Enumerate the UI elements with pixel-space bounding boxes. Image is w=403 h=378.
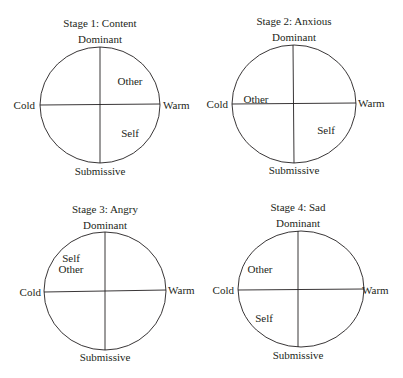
stage-1-title: Stage 1: Content (63, 17, 136, 29)
stage-1-axis-warm: Warm (163, 99, 190, 111)
stage-3-axis-submissive: Submissive (80, 351, 131, 363)
stage-3-other-marker: Other (58, 263, 83, 275)
stage-2-diagram: Stage 2: Anxious Dominant Cold Warm Subm… (207, 15, 385, 176)
stage-1-diagram: Stage 1: Content Dominant Cold Warm Subm… (14, 17, 190, 177)
stage-1-axis-dominant: Dominant (78, 33, 122, 45)
stage-2-other-marker: Other (243, 93, 268, 105)
stage-3-diagram: Stage 3: Angry Dominant Cold Warm Submis… (20, 203, 195, 363)
stage-1-horizontal-axis (40, 104, 160, 105)
stage-3-title: Stage 3: Angry (72, 203, 138, 215)
stage-4-axis-submissive: Submissive (273, 349, 324, 361)
stage-4-diagram: Stage 4: Sad Dominant Cold Warm Submissi… (213, 201, 389, 361)
stage-3-axis-dominant: Dominant (83, 219, 127, 231)
stage-4-axis-cold: Cold (213, 284, 235, 296)
stage-4-other-marker: Other (247, 263, 272, 275)
stage-2-vertical-axis (293, 45, 294, 163)
stage-2-title: Stage 2: Anxious (256, 15, 331, 27)
stage-1-axis-cold: Cold (14, 99, 36, 111)
stage-2-self-marker: Self (317, 124, 335, 136)
stage-4-axis-warm: Warm (362, 284, 389, 296)
stage-2-axis-warm: Warm (358, 97, 385, 109)
stage-4-horizontal-axis (238, 289, 364, 290)
stage-1-axis-submissive: Submissive (75, 165, 126, 177)
stage-1-other-marker: Other (117, 75, 142, 87)
stage-1-self-marker: Self (121, 127, 139, 139)
stage-4-axis-dominant: Dominant (276, 217, 320, 229)
stage-2-axis-dominant: Dominant (272, 31, 316, 43)
stage-3-axis-warm: Warm (168, 284, 195, 296)
stage-4-self-marker: Self (255, 312, 273, 324)
stage-4-title: Stage 4: Sad (271, 201, 326, 213)
stage-3-axis-cold: Cold (20, 286, 42, 298)
stage-2-axis-cold: Cold (207, 98, 229, 110)
stage-2-axis-submissive: Submissive (269, 164, 320, 176)
interpersonal-circumplex-diagrams: Stage 1: Content Dominant Cold Warm Subm… (0, 0, 403, 378)
